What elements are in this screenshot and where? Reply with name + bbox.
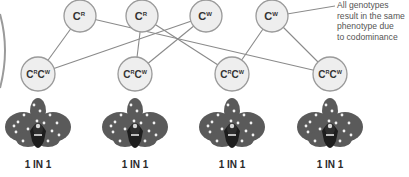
ratio-label: 1 IN 1 [317, 159, 344, 170]
parent-allele-node: CW [256, 0, 288, 32]
orchid-flower-icon [5, 98, 71, 148]
ratio-label: 1 IN 1 [25, 159, 52, 170]
parent-allele-node: CR [126, 0, 158, 32]
offspring-genotype-node: CRCW [313, 57, 347, 91]
annotation-line-4: to codominance [337, 32, 409, 43]
parent-alleles: CRCRCWCW [64, 0, 288, 32]
annotation-line-1: All genotypes [337, 0, 409, 11]
offspring-genotype-node: CRCW [118, 57, 152, 91]
ratio-label: 1 IN 1 [122, 159, 149, 170]
orchid-phenotypes: 1 IN 11 IN 11 IN 11 IN 1 [5, 98, 363, 170]
parent-allele-node: CW [190, 0, 222, 32]
offspring-genotype-node: CRCW [215, 57, 249, 91]
codominance-annotation: All genotypes result in the same phenoty… [337, 0, 409, 42]
left-arc-decoration [0, 14, 5, 88]
annotation-line-3: phenotype due [337, 21, 409, 32]
orchid-flower-icon [199, 98, 265, 148]
orchid-flower-icon [297, 98, 363, 148]
offspring-genotype-node: CRCW [21, 57, 55, 91]
ratio-label: 1 IN 1 [219, 159, 246, 170]
orchid-flower-icon [102, 98, 168, 148]
annotation-line-2: result in the same [337, 11, 409, 22]
annotation-pointer-line [287, 6, 335, 14]
parent-allele-node: CR [64, 0, 96, 32]
offspring-genotypes: CRCWCRCWCRCWCRCW [21, 57, 347, 91]
